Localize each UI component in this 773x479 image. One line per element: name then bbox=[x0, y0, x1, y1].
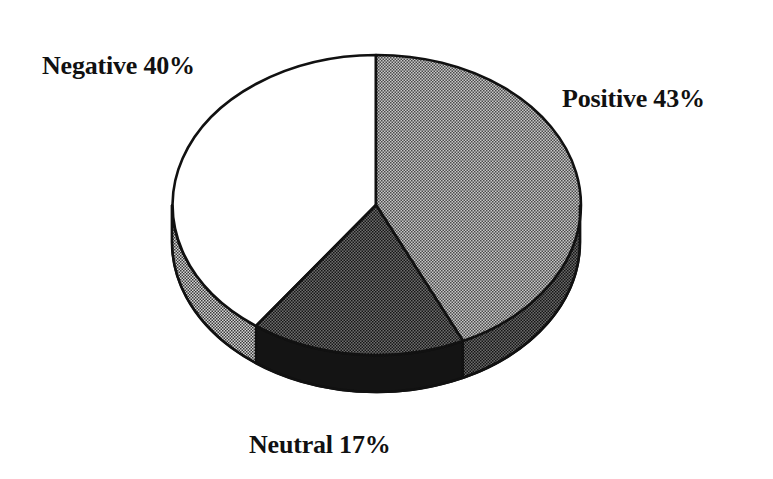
pie-chart: Negative 40% Positive 43% Neutral 17% bbox=[0, 0, 773, 479]
label-positive: Positive 43% bbox=[562, 86, 705, 112]
label-neutral: Neutral 17% bbox=[249, 432, 391, 458]
label-negative: Negative 40% bbox=[42, 53, 195, 79]
